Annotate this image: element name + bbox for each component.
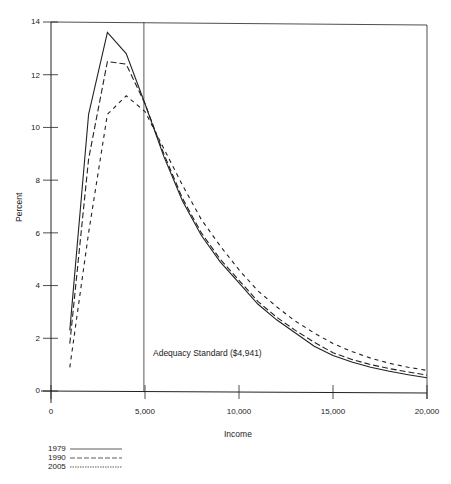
xtick-0: 0 (31, 407, 71, 416)
short-dash-line-swatch (70, 462, 122, 471)
ytick-0: 0 (20, 386, 40, 395)
xtick-15000: 15,000 (313, 407, 353, 416)
legend: 1979 1990 2005 (48, 444, 122, 471)
adequacy-standard-label: Adequacy Standard ($4,941) (153, 348, 262, 358)
ytick-8: 8 (20, 176, 40, 185)
ytick-4: 4 (20, 281, 40, 290)
x-axis (41, 391, 427, 393)
legend-item-1979: 1979 (48, 444, 122, 453)
ytick-10: 10 (20, 123, 40, 132)
solid-line-swatch (70, 444, 122, 453)
xtick-10000: 10,000 (219, 407, 259, 416)
top-frame (51, 22, 427, 25)
ytick-6: 6 (20, 229, 40, 238)
series-2005-line (70, 96, 427, 371)
long-dash-line-swatch (70, 453, 122, 462)
series-1979-line (70, 33, 427, 378)
xtick-20000: 20,000 (407, 407, 447, 416)
x-axis-title: Income (224, 429, 252, 439)
ytick-2: 2 (20, 334, 40, 343)
legend-item-1990: 1990 (48, 453, 122, 462)
series-1990-line (70, 62, 427, 376)
xtick-5000: 5,000 (125, 407, 165, 416)
ytick-14: 14 (20, 17, 40, 26)
ytick-12: 12 (20, 71, 40, 80)
legend-item-2005: 2005 (48, 462, 122, 471)
y-axis-title: Percent (14, 193, 24, 222)
